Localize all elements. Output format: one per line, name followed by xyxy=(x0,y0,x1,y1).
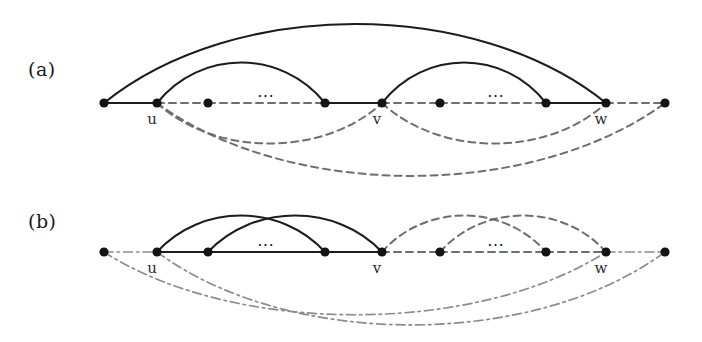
node-label-u: u xyxy=(147,259,157,277)
node-label-v: v xyxy=(372,110,382,128)
node-n4[interactable] xyxy=(320,247,329,256)
panel-b: ⋯⋯uvw xyxy=(99,216,669,325)
node-n9[interactable] xyxy=(660,98,669,107)
node-v[interactable] xyxy=(377,98,386,107)
node-label-v: v xyxy=(372,259,382,277)
node-label-u: u xyxy=(147,110,157,128)
panel-label-b: (b) xyxy=(28,210,57,232)
arc-above-v-n7 xyxy=(382,63,546,104)
arc-below-u-v xyxy=(157,103,382,144)
arc-below-v-w xyxy=(382,103,606,144)
node-n7[interactable] xyxy=(541,247,550,256)
ellipsis-mark: ⋯ xyxy=(257,85,275,105)
panel-label-a: (a) xyxy=(28,58,56,80)
arc-below-n1-w xyxy=(104,252,606,315)
node-n6[interactable] xyxy=(435,247,444,256)
node-w[interactable] xyxy=(601,98,610,107)
node-u[interactable] xyxy=(152,98,161,107)
arc-above-n6-w xyxy=(440,216,606,252)
arc-above-v-n7 xyxy=(382,216,546,252)
graph-figure: ⋯⋯uvw⋯⋯uvw xyxy=(0,0,702,342)
node-w[interactable] xyxy=(601,247,610,256)
node-n6[interactable] xyxy=(435,98,444,107)
arc-above-n1-w xyxy=(104,24,606,103)
node-n9[interactable] xyxy=(660,247,669,256)
ellipsis-mark: ⋯ xyxy=(487,85,505,105)
node-n3[interactable] xyxy=(203,247,212,256)
arc-above-n3-v xyxy=(208,216,382,252)
arc-above-u-n4 xyxy=(157,63,325,104)
panel-a: ⋯⋯uvw xyxy=(99,24,669,176)
node-u[interactable] xyxy=(152,247,161,256)
ellipsis-mark: ⋯ xyxy=(257,234,275,254)
node-n1[interactable] xyxy=(99,98,108,107)
arc-above-u-n4 xyxy=(157,216,325,252)
node-v[interactable] xyxy=(377,247,386,256)
ellipsis-mark: ⋯ xyxy=(487,234,505,254)
node-label-w: w xyxy=(595,259,608,277)
node-n3[interactable] xyxy=(203,98,212,107)
node-label-w: w xyxy=(595,110,608,128)
node-n1[interactable] xyxy=(99,247,108,256)
node-n4[interactable] xyxy=(320,98,329,107)
node-n7[interactable] xyxy=(541,98,550,107)
